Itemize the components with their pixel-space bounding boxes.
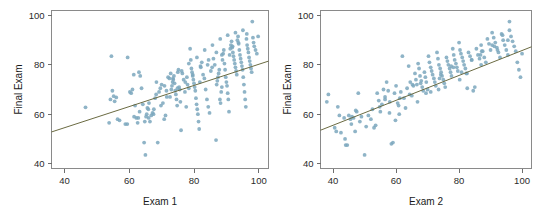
data-point [221, 58, 225, 62]
data-point [363, 153, 367, 157]
data-point [197, 120, 201, 124]
data-point [184, 105, 188, 109]
data-point [339, 131, 343, 135]
data-point [250, 20, 254, 24]
data-point [225, 84, 229, 88]
data-point [508, 28, 512, 32]
data-point [195, 56, 199, 60]
x-tick-label: 80 [189, 175, 200, 186]
data-point [165, 95, 169, 99]
data-point [110, 89, 114, 93]
data-point [245, 43, 249, 47]
data-point [417, 67, 421, 71]
data-point [416, 62, 420, 66]
data-point [114, 96, 118, 100]
data-point [136, 116, 140, 120]
data-point [418, 74, 422, 78]
data-point [452, 65, 456, 69]
data-point [236, 35, 240, 39]
data-point [493, 41, 497, 45]
data-point [240, 64, 244, 68]
data-point [214, 138, 218, 142]
data-point [203, 48, 207, 52]
data-point [251, 36, 255, 40]
data-point [460, 56, 464, 60]
data-point [213, 63, 217, 67]
data-point [364, 125, 368, 129]
data-point [382, 88, 386, 92]
y-tick-label: 40 [303, 158, 314, 169]
data-point [180, 69, 184, 73]
data-point [245, 32, 249, 36]
data-point [231, 51, 235, 55]
data-point [490, 31, 494, 35]
data-point [223, 62, 227, 66]
data-point [388, 111, 392, 115]
data-point [386, 89, 390, 93]
data-point [435, 51, 439, 55]
data-point [148, 120, 152, 124]
data-point [458, 78, 462, 82]
data-point [254, 48, 258, 52]
data-point [244, 105, 248, 109]
data-point [482, 56, 486, 60]
data-point [158, 86, 162, 90]
data-point [455, 65, 459, 69]
data-point [437, 88, 441, 92]
data-point [503, 43, 507, 47]
data-point [424, 91, 428, 95]
data-point [194, 96, 198, 100]
data-point [175, 97, 179, 101]
data-point [430, 69, 434, 73]
data-point [437, 63, 441, 67]
data-point [163, 84, 167, 88]
data-point [195, 107, 199, 111]
data-point [245, 37, 249, 41]
data-point [243, 90, 247, 94]
data-point [118, 118, 122, 122]
data-point [110, 54, 114, 58]
data-point [375, 91, 379, 95]
x-tick-label: 100 [514, 175, 530, 186]
data-point [196, 112, 200, 116]
data-point [397, 104, 401, 108]
data-point [129, 91, 133, 95]
data-point [175, 104, 179, 108]
x-tick-label: 80 [454, 175, 465, 186]
data-point [152, 107, 156, 111]
data-point [459, 52, 463, 56]
x-tick-label: 60 [391, 175, 402, 186]
x-tick-label: 40 [328, 175, 339, 186]
data-point [424, 80, 428, 84]
data-point [191, 73, 195, 77]
data-point [393, 91, 397, 95]
data-point [433, 80, 437, 84]
data-point [326, 93, 330, 97]
data-point [486, 37, 490, 41]
data-point [179, 128, 183, 132]
data-point [225, 80, 229, 84]
data-point [333, 126, 337, 130]
data-point [217, 68, 221, 72]
data-point [397, 112, 401, 116]
data-point [420, 85, 424, 89]
data-point [414, 78, 418, 82]
y-tick-label: 80 [303, 59, 314, 70]
data-point [206, 63, 210, 67]
y-tick-label: 60 [34, 109, 45, 120]
y-tick-label: 40 [34, 158, 45, 169]
data-point [208, 111, 212, 115]
data-point [143, 120, 147, 124]
data-point [484, 60, 488, 64]
data-point [183, 80, 187, 84]
data-point [204, 88, 208, 92]
data-point [191, 78, 195, 82]
data-point [515, 60, 519, 64]
data-point [165, 89, 169, 93]
data-point [428, 60, 432, 64]
data-point [443, 85, 447, 89]
data-point [407, 64, 411, 68]
data-point [449, 70, 453, 74]
data-point [383, 97, 387, 101]
data-point [431, 73, 435, 77]
